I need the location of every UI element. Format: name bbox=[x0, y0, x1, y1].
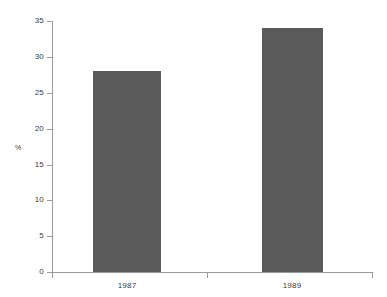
y-tick-label-10: 10 bbox=[35, 196, 44, 204]
x-axis-line bbox=[52, 272, 373, 273]
y-tick-5 bbox=[47, 236, 52, 237]
y-tick-35 bbox=[47, 21, 52, 22]
y-tick-25 bbox=[47, 93, 52, 94]
y-tick-30 bbox=[47, 57, 52, 58]
y-tick-20 bbox=[47, 129, 52, 130]
y-tick-label-0: 0 bbox=[39, 268, 44, 276]
x-tick-label-1989: 1989 bbox=[272, 281, 312, 290]
x-tick-start bbox=[52, 272, 53, 278]
x-tick-label-1987: 1987 bbox=[107, 281, 147, 290]
x-tick-middle bbox=[207, 272, 208, 278]
bar-1989 bbox=[262, 28, 323, 272]
y-axis-title: % bbox=[15, 144, 21, 152]
bar-chart: % 0 5 10 15 20 25 30 35 1987 1989 bbox=[0, 0, 387, 297]
x-tick-end bbox=[372, 272, 373, 278]
y-tick-10 bbox=[47, 200, 52, 201]
y-tick-label-30: 30 bbox=[35, 53, 44, 61]
y-tick-label-25: 25 bbox=[35, 89, 44, 97]
y-tick-label-15: 15 bbox=[35, 161, 44, 169]
bar-1987 bbox=[93, 71, 161, 272]
y-tick-label-35: 35 bbox=[35, 17, 44, 25]
y-tick-label-20: 20 bbox=[35, 125, 44, 133]
y-tick-label-5: 5 bbox=[39, 232, 44, 240]
y-axis-line bbox=[52, 21, 53, 273]
y-tick-15 bbox=[47, 165, 52, 166]
